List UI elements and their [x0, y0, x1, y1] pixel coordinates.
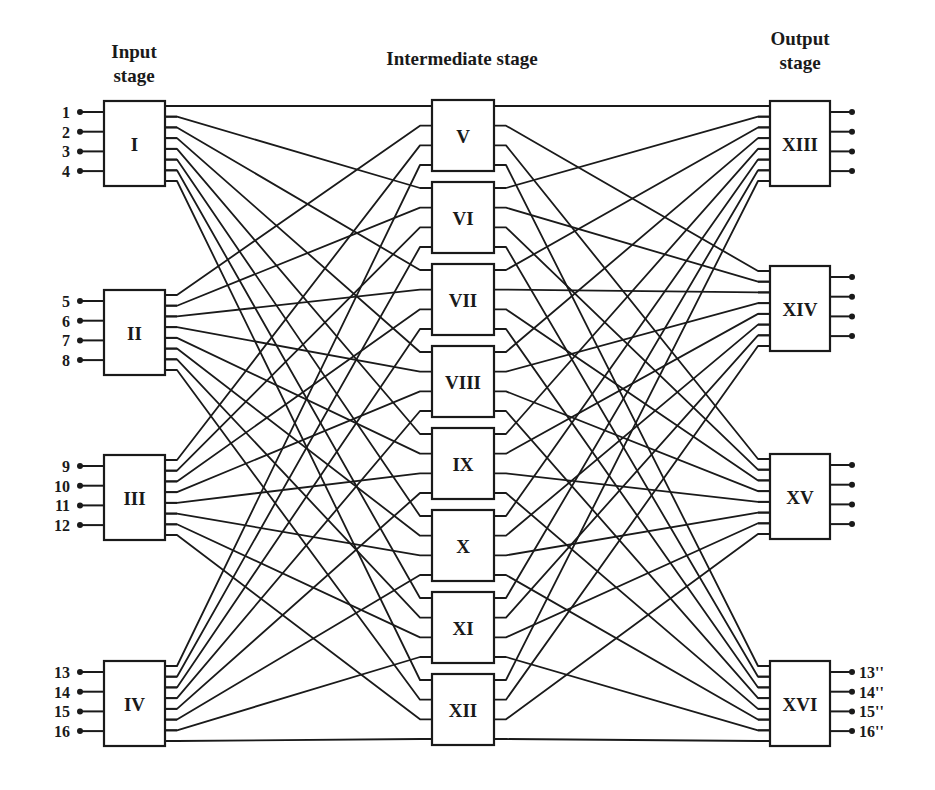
wire-input-to-intermediate	[165, 145, 432, 460]
input-port-label: 7	[62, 332, 70, 349]
wire-input-to-intermediate	[165, 657, 432, 730]
input-port-label: 2	[62, 124, 70, 141]
input-terminal-dot	[77, 298, 83, 304]
intermediate-block-xi: XI	[432, 592, 494, 663]
input-port-label: 8	[62, 352, 70, 369]
output-port-label: 13''	[859, 664, 884, 681]
input-port-label: 9	[62, 458, 70, 475]
input-port-label: 3	[62, 143, 70, 160]
input-terminal-dot	[77, 318, 83, 324]
input-terminal-dot	[77, 337, 83, 343]
wire-intermediate-to-output	[494, 657, 770, 730]
intermediate-block-ix: IX	[432, 428, 494, 499]
input-terminal-dot	[77, 483, 83, 489]
input-terminal-dot	[77, 109, 83, 115]
intermediate-block-viii: VIII	[432, 346, 494, 417]
input-block-iii: III9101112	[54, 455, 177, 540]
wire-intermediate-to-output	[494, 739, 770, 741]
input-terminal-dot	[77, 463, 83, 469]
block-label: XIII	[782, 134, 818, 155]
input-terminal-dot	[77, 669, 83, 675]
output-terminal-dot	[849, 274, 855, 280]
output-terminal-dot	[849, 109, 855, 115]
clos-network-diagram: Input stage Intermediate stage Output st…	[0, 0, 935, 790]
intermediate-block-xii: XII	[432, 674, 494, 745]
input-terminal-dot	[77, 502, 83, 508]
output-terminal-dot	[849, 129, 855, 135]
intermediate-block-vi: VI	[432, 182, 494, 253]
block-label: IV	[124, 694, 145, 715]
input-block-ii: II5678	[62, 290, 177, 375]
intermediate-block-v: V	[432, 100, 494, 171]
output-port-label: 15''	[859, 703, 884, 720]
output-block-xvi: XVI13''14''15''16''	[758, 661, 884, 746]
input-stage-title-line2: stage	[113, 65, 154, 86]
wire-input-to-intermediate	[165, 309, 432, 481]
input-port-label: 16	[54, 723, 70, 740]
input-port-label: 1	[62, 104, 70, 121]
output-terminal-dot	[849, 728, 855, 734]
input-terminal-dot	[77, 357, 83, 363]
wire-input-to-intermediate	[165, 493, 432, 709]
wire-input-to-intermediate	[165, 473, 432, 503]
block-label: VI	[452, 208, 473, 229]
wire-input-to-intermediate	[165, 138, 432, 352]
output-terminal-dot	[849, 148, 855, 154]
wire-input-to-intermediate	[165, 149, 432, 434]
wire-intermediate-to-output	[494, 493, 770, 709]
wire-intermediate-to-output	[494, 309, 770, 480]
block-label: III	[123, 488, 145, 509]
block-label: X	[456, 536, 470, 557]
block-label: XII	[449, 700, 478, 721]
output-port-label: 14''	[859, 684, 884, 701]
input-block-i: I1234	[62, 101, 177, 186]
wire-input-to-intermediate	[165, 126, 432, 295]
output-terminal-dot	[849, 482, 855, 488]
intermediate-stage-title: Intermediate stage	[386, 48, 537, 69]
wire-input-to-intermediate	[165, 227, 432, 470]
wire-intermediate-to-output	[494, 138, 770, 352]
block-label: VIII	[445, 372, 481, 393]
input-terminal-dot	[77, 522, 83, 528]
wire-input-to-intermediate	[165, 117, 432, 188]
block-label: IX	[452, 454, 473, 475]
input-port-label: 4	[62, 163, 70, 180]
output-terminal-dot	[849, 708, 855, 714]
input-port-label: 15	[54, 703, 70, 720]
intermediate-block-vii: VII	[432, 264, 494, 335]
wire-input-to-intermediate	[165, 127, 432, 270]
input-port-label: 12	[54, 517, 70, 534]
block-label: II	[127, 323, 142, 344]
input-port-label: 13	[54, 664, 70, 681]
input-terminal-dot	[77, 708, 83, 714]
output-terminal-dot	[849, 462, 855, 468]
output-terminal-dot	[849, 333, 855, 339]
output-terminal-dot	[849, 521, 855, 527]
block-label: V	[456, 126, 470, 147]
block-label: XI	[452, 618, 473, 639]
block-label: VII	[449, 290, 478, 311]
wire-input-to-intermediate	[165, 411, 432, 698]
input-port-label: 5	[62, 293, 70, 310]
wire-intermediate-to-output	[494, 145, 770, 459]
output-port-label: 16''	[859, 723, 884, 740]
wire-intermediate-to-output	[494, 117, 770, 188]
wire-intermediate-to-output	[494, 127, 770, 270]
intermediate-block-x: X	[432, 510, 494, 581]
input-port-label: 6	[62, 313, 70, 330]
output-terminal-dot	[849, 689, 855, 695]
output-stage-title-line2: stage	[779, 52, 820, 73]
input-port-label: 11	[55, 497, 70, 514]
wire-input-to-intermediate	[165, 739, 432, 741]
input-stage-title-line1: Input	[111, 41, 157, 62]
output-terminal-dot	[849, 294, 855, 300]
input-terminal-dot	[77, 728, 83, 734]
block-label: XV	[786, 487, 814, 508]
switch-blocks: I1234II5678III9101112IV13141516VVIVIIVII…	[54, 100, 884, 746]
block-label: XIV	[783, 299, 818, 320]
output-terminal-dot	[849, 168, 855, 174]
output-stage-title-line1: Output	[770, 28, 830, 49]
input-terminal-dot	[77, 689, 83, 695]
input-block-iv: IV13141516	[54, 661, 177, 746]
output-block-xv: XV	[758, 454, 855, 539]
